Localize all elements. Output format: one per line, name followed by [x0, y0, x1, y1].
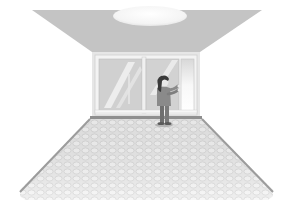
right-narrow-pane — [181, 59, 194, 111]
room-illustration: Illustrated room in perspective with a c… — [0, 0, 289, 216]
window-group — [95, 55, 197, 115]
tiled-floor — [20, 119, 273, 200]
ceiling-light — [113, 6, 187, 26]
baseboard — [90, 116, 202, 119]
